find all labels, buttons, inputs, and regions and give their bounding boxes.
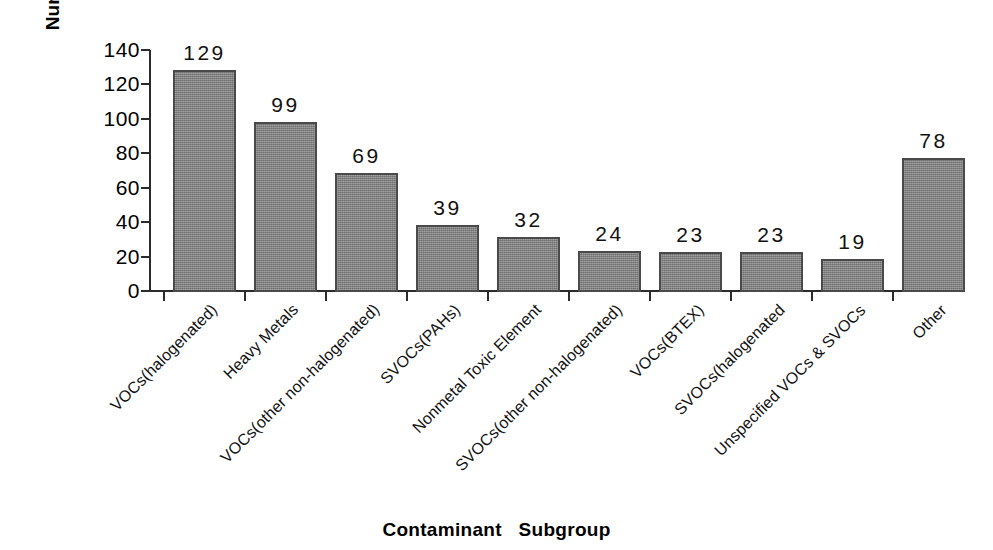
plot-area: 129996939322423231978 xyxy=(149,20,946,292)
bar[interactable] xyxy=(173,70,236,292)
y-axis-tick-mark xyxy=(141,83,150,85)
x-axis-category-label: Heavy Metals xyxy=(220,301,302,383)
x-axis-category-label-text: Unspecified VOCs & SVOCs xyxy=(711,301,869,459)
y-axis-tick-label: 60 xyxy=(84,177,140,198)
x-axis-category-label-text: VOCs(other non-halogenated) xyxy=(217,301,383,467)
bar[interactable] xyxy=(659,252,722,292)
x-axis-category-label-text: SVOCs(PAHs) xyxy=(377,301,464,388)
y-axis-tick-label: 140 xyxy=(84,39,140,60)
x-axis-tick-mark xyxy=(811,292,813,301)
x-axis-tick-mark xyxy=(406,292,408,301)
x-axis-category-label: SVOCs(PAHs) xyxy=(377,301,464,388)
bar-chart: Number of Sites 140120100806040200 12999… xyxy=(0,0,993,550)
y-axis-tick-label: 120 xyxy=(84,73,140,94)
bar-value-label: 32 xyxy=(485,209,572,230)
x-axis-tick-mark xyxy=(163,292,165,301)
x-axis-tick-mark xyxy=(892,292,894,301)
x-axis-tick-mark xyxy=(487,292,489,301)
bar[interactable] xyxy=(740,252,803,292)
bar[interactable] xyxy=(497,237,560,292)
x-axis-category-label: SVOCs(other non-halogenated) xyxy=(452,301,626,475)
x-axis-tick-mark xyxy=(568,292,570,301)
bar[interactable] xyxy=(821,259,884,292)
bar[interactable] xyxy=(902,158,965,292)
bar-value-label: 99 xyxy=(242,94,329,115)
x-axis-tick-mark xyxy=(244,292,246,301)
y-axis-tick-label: 0 xyxy=(84,280,140,301)
x-axis-tick-mark xyxy=(730,292,732,301)
x-axis-category-label: Other xyxy=(909,301,950,342)
y-axis-tick-mark xyxy=(141,118,150,120)
x-axis-category-label-text: VOCs(BTEX) xyxy=(627,301,708,382)
bar-value-label: 19 xyxy=(809,231,896,252)
y-axis-tick-mark xyxy=(141,221,150,223)
bar-value-label: 23 xyxy=(728,224,815,245)
bar-value-label: 39 xyxy=(404,197,491,218)
bar[interactable] xyxy=(578,251,641,292)
x-axis-tick-mark xyxy=(325,292,327,301)
bar[interactable] xyxy=(335,173,398,292)
y-axis-tick-label: 100 xyxy=(84,108,140,129)
y-axis-tick-mark xyxy=(141,290,150,292)
y-axis-tick-label: 20 xyxy=(84,246,140,267)
x-axis-category-label: Unspecified VOCs & SVOCs xyxy=(711,301,869,459)
y-axis-tick-labels: 140120100806040200 xyxy=(78,0,140,550)
x-axis-title: Contaminant Subgroup xyxy=(0,519,993,541)
bar[interactable] xyxy=(416,225,479,292)
bar[interactable] xyxy=(254,122,317,292)
x-axis-category-label: VOCs(BTEX) xyxy=(627,301,708,382)
bar-value-label: 23 xyxy=(647,224,734,245)
y-axis-tick-mark xyxy=(141,256,150,258)
y-axis-title: Number of Sites xyxy=(38,0,68,78)
y-axis-tick-mark xyxy=(141,152,150,154)
x-axis-tick-mark xyxy=(649,292,651,301)
bar-value-label: 69 xyxy=(323,145,410,166)
bar-value-label: 129 xyxy=(161,42,248,63)
y-axis-tick-mark xyxy=(141,187,150,189)
x-axis-category-label-text: Heavy Metals xyxy=(220,301,302,383)
x-axis-category-label-text: SVOCs(other non-halogenated) xyxy=(452,301,626,475)
y-axis-tick-mark xyxy=(141,49,150,51)
x-axis-category-label: VOCs(other non-halogenated) xyxy=(217,301,383,467)
y-axis-tick-label: 80 xyxy=(84,142,140,163)
bar-value-label: 78 xyxy=(890,130,977,151)
bar-value-label: 24 xyxy=(566,223,653,244)
y-axis-tick-label: 40 xyxy=(84,211,140,232)
x-axis-category-label-text: Other xyxy=(909,301,950,342)
